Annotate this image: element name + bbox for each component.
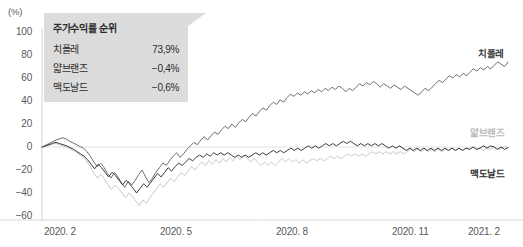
legend-series-value: −0,4% [152, 63, 179, 74]
legend-row: 맥도날드 −0,6% [53, 79, 179, 94]
series-line [42, 144, 508, 206]
series-label-yum-brands: 얇브랜즈 [470, 125, 505, 139]
x-axis-tick: 2021. 2 [468, 226, 500, 237]
x-axis-tick: 2020. 8 [276, 226, 308, 237]
x-axis-tick: 2020. 11 [392, 226, 429, 237]
legend-series-name: 맥도날드 [53, 79, 88, 94]
legend-callout-box: 주가수익률 순위 치폴레 73,9% 얇브랜즈 −0,4% 맥도날드 −0,6% [44, 13, 188, 102]
legend-title: 주가수익률 순위 [53, 20, 179, 35]
legend-row: 치폴레 73,9% [53, 41, 179, 56]
series-label-chipotle: 치폴레 [478, 46, 504, 60]
legend-series-name: 치폴레 [53, 41, 79, 56]
stock-return-line-chart: (%) 100806040200−20−40−60 주가수익률 순위 치폴레 7… [0, 0, 523, 247]
legend-series-value: −0,6% [152, 82, 179, 93]
legend-series-value: 73,9% [152, 44, 179, 55]
legend-callout-tail [188, 13, 206, 26]
legend-row: 얇브랜즈 −0,4% [53, 60, 179, 75]
series-label-mcdonalds: 맥도날드 [470, 166, 505, 180]
x-axis-tick: 2020. 2 [44, 226, 76, 237]
legend-series-name: 얇브랜즈 [53, 60, 88, 75]
x-axis-tick: 2020. 5 [160, 226, 192, 237]
